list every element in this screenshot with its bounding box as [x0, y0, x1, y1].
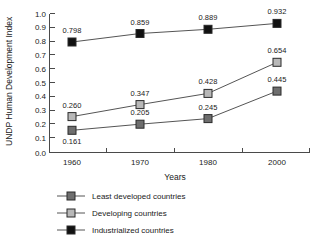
data-point-label: 0.445	[268, 75, 287, 84]
data-point-marker	[68, 38, 76, 46]
data-point-marker	[68, 113, 76, 121]
data-point-label: 0.798	[63, 26, 82, 35]
chart-container: UNDP Human Development Index 1.0 0.9 0.8…	[0, 0, 317, 242]
y-tick-label: 0.1	[35, 134, 47, 143]
x-axis-ticks	[107, 148, 310, 153]
x-tick-label: 1960	[63, 158, 81, 167]
data-point-label: 0.245	[199, 103, 218, 112]
hdi-line-chart: UNDP Human Development Index 1.0 0.9 0.8…	[0, 0, 317, 242]
data-point-marker	[273, 19, 281, 27]
legend-item-developing-countries[interactable]: Developing countries	[57, 209, 167, 218]
y-tick-label: 0.5	[35, 79, 47, 88]
series-line-industrialized	[72, 23, 277, 42]
data-point-label: 0.859	[131, 18, 150, 27]
x-tick-label: 1970	[131, 158, 149, 167]
data-point-marker	[136, 120, 144, 128]
y-tick-label: 0.8	[35, 37, 47, 46]
x-axis-tick-labels: 1960 1970 1980 2000	[63, 158, 286, 167]
data-point-label: 0.161	[63, 137, 82, 146]
y-axis-tick-labels: 1.0 0.9 0.8 0.7 0.6 0.5 0.4 0.3 0.2 0.1 …	[35, 10, 47, 158]
series-line-developing	[72, 62, 277, 116]
y-tick-label: 0.6	[35, 65, 47, 74]
legend-label: Developing countries	[92, 209, 167, 218]
y-axis-ticks	[50, 14, 55, 138]
x-tick-label: 2000	[268, 158, 286, 167]
y-axis-title: UNDP Human Development Index	[4, 16, 14, 146]
x-tick-label: 1980	[199, 158, 217, 167]
y-tick-label: 1.0	[35, 10, 47, 19]
legend-label: Least developed countries	[92, 192, 185, 201]
data-point-marker	[204, 25, 212, 33]
data-point-label: 0.428	[199, 77, 218, 86]
data-point-label: 0.205	[131, 108, 150, 117]
x-axis-title: Years	[164, 172, 185, 182]
legend-label: Industrialized countries	[92, 226, 174, 235]
legend-swatch-icon	[67, 192, 75, 200]
data-point-label: 0.654	[268, 46, 287, 55]
data-point-label: 0.260	[63, 101, 82, 110]
y-tick-label: 0.4	[35, 92, 47, 101]
data-point-label: 0.932	[268, 7, 287, 16]
data-point-label: 0.889	[199, 13, 218, 22]
chart-legend: Least developed countries Developing cou…	[57, 192, 185, 235]
data-point-marker	[204, 115, 212, 123]
legend-item-least-developed-countries[interactable]: Least developed countries	[57, 192, 185, 201]
y-tick-label: 0.0	[35, 149, 47, 158]
series-least-developed-countries: 0.161 0.205 0.245 0.445	[63, 75, 287, 146]
data-point-marker	[136, 30, 144, 38]
legend-swatch-icon	[67, 226, 75, 234]
y-tick-label: 0.3	[35, 106, 47, 115]
y-tick-label: 0.7	[35, 51, 47, 60]
data-point-marker	[204, 89, 212, 97]
y-tick-label: 0.2	[35, 120, 47, 129]
legend-item-industrialized-countries[interactable]: Industrialized countries	[57, 226, 174, 235]
series-industrialized-countries: 0.798 0.859 0.889 0.932	[63, 7, 287, 46]
data-point-marker	[68, 126, 76, 134]
data-point-marker	[273, 87, 281, 95]
data-point-marker	[273, 58, 281, 66]
y-tick-label: 0.9	[35, 23, 47, 32]
series-developing-countries: 0.260 0.347 0.428 0.654	[63, 46, 287, 120]
legend-swatch-icon	[67, 209, 75, 217]
data-point-label: 0.347	[131, 89, 150, 98]
